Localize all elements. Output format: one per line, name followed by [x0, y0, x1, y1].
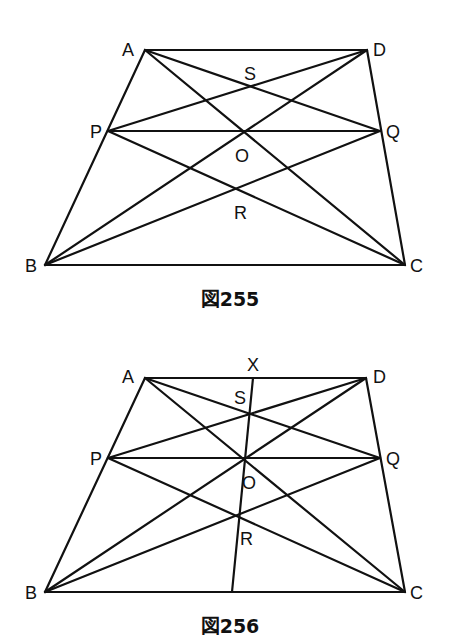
- point-label-r: R: [240, 529, 253, 549]
- figure-caption: 図255: [201, 288, 260, 310]
- figure-caption: 図256: [201, 615, 260, 637]
- figure-255: ADSPQORBC図255: [25, 40, 423, 310]
- segment-d-p: [108, 50, 367, 131]
- point-label-s: S: [234, 388, 246, 408]
- point-label-o: O: [235, 146, 249, 166]
- point-label-x: X: [247, 355, 259, 375]
- point-label-r: R: [234, 203, 247, 223]
- point-label-q: Q: [386, 449, 400, 469]
- segment-q-b: [45, 131, 380, 265]
- geometry-figures: ADSPQORBC図255 AXDSPQORBC図256: [0, 0, 450, 639]
- point-label-s: S: [244, 64, 256, 84]
- point-label-b: B: [25, 583, 37, 603]
- point-label-p: P: [90, 449, 102, 469]
- point-label-a: A: [122, 367, 134, 387]
- point-label-q: Q: [386, 122, 400, 142]
- segment-a-c: [145, 50, 405, 265]
- point-label-c: C: [410, 583, 423, 603]
- point-label-a: A: [122, 40, 134, 60]
- segment-d-c: [366, 378, 405, 592]
- point-label-o: O: [242, 473, 256, 493]
- point-label-p: P: [90, 122, 102, 142]
- segment-q-b: [45, 458, 380, 592]
- point-label-d: D: [373, 367, 386, 387]
- segment-p-c: [108, 458, 405, 592]
- segment-d-b: [45, 50, 367, 265]
- segment-a-c: [145, 378, 405, 592]
- segment-p-c: [108, 131, 405, 265]
- point-label-c: C: [410, 256, 423, 276]
- point-label-d: D: [373, 40, 386, 60]
- figure-256: AXDSPQORBC図256: [25, 355, 423, 637]
- point-label-b: B: [25, 256, 37, 276]
- segment-d-b: [45, 378, 366, 592]
- segment-d-c: [367, 50, 405, 265]
